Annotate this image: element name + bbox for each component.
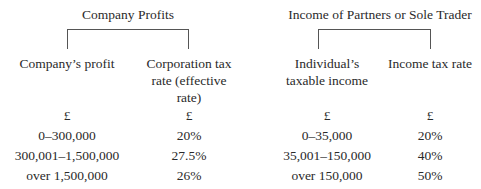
corp-tax-header-line2: rate (effective (130, 72, 248, 89)
individual-income-header-line2: taxable income (272, 72, 382, 89)
company-rate: 26% (130, 167, 248, 184)
individual-rate: 50% (380, 167, 480, 184)
individual-band: over 150,000 (272, 167, 382, 184)
individual-income-header-line1: Individual’s (272, 55, 382, 72)
company-profits-title: Company Profits (60, 6, 196, 23)
individual-unit-1: £ (272, 107, 382, 124)
individual-band: 0–35,000 (272, 127, 382, 144)
individual-income-title: Income of Partners or Sole Trader (280, 6, 480, 23)
individual-band: 35,001–150,000 (272, 147, 382, 164)
company-bracket-right (188, 29, 189, 49)
individual-bracket-right (430, 29, 431, 49)
individual-bracket-left (318, 29, 319, 49)
corp-tax-header-line3: rate) (130, 89, 248, 106)
company-unit-1: £ (0, 107, 134, 124)
company-bracket-left (67, 29, 68, 49)
company-band: over 1,500,000 (0, 167, 134, 184)
company-band: 300,001–1,500,000 (0, 147, 134, 164)
income-tax-rate-header: Income tax rate (380, 55, 480, 72)
individual-unit-2: £ (380, 107, 480, 124)
company-band: 0–300,000 (0, 127, 134, 144)
company-profit-header: Company’s profit (0, 55, 134, 72)
individual-rate: 40% (380, 147, 480, 164)
company-bracket-top (67, 29, 189, 30)
corp-tax-header-line1: Corporation tax (130, 55, 248, 72)
company-rate: 20% (130, 127, 248, 144)
individual-rate: 20% (380, 127, 480, 144)
company-unit-2: £ (130, 107, 248, 124)
company-rate: 27.5% (130, 147, 248, 164)
individual-bracket-top (318, 29, 431, 30)
